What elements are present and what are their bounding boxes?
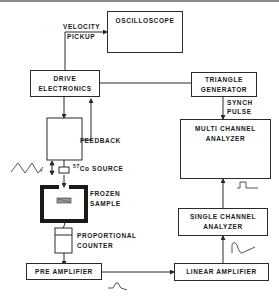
velocity-label: VELOCITY [63,22,100,31]
source-text: Co SOURCE [80,165,124,172]
sca-label-1: SINGLE CHANNEL [190,212,256,222]
triangle-generator-label-2: GENERATOR [201,85,247,95]
linear-amplifier-label: LINEAR AMPLIFIER [186,267,256,277]
pre-amplifier-block: PRE AMPLIFIER [26,263,102,280]
pre-amplifier-label: PRE AMPLIFIER [35,267,93,277]
synch-label: SYNCH [227,98,253,107]
drive-electronics-label-1: DRIVE [54,74,77,84]
linear-amplifier-block: LINEAR AMPLIFIER [174,263,269,281]
proportional-counter [55,228,72,253]
single-channel-analyzer-block: SINGLE CHANNEL ANALYZER [178,208,268,236]
mca-label-2: ANALYZER [206,134,246,144]
multi-channel-analyzer-block: MULTI CHANNEL ANALYZER [180,119,271,179]
pickup-label: PICKUP [67,32,95,41]
drive-transducer [47,118,82,160]
source-label: 57Co SOURCE [73,162,123,173]
frozen-label: FROZEN [90,189,120,198]
pulse-label: PULSE [227,107,252,116]
feedback-label: FEEDBACK [80,136,121,145]
oscilloscope-block: OSCILLOSCOPE [107,11,183,53]
triangle-generator-block: TRIANGLE GENERATOR [191,72,257,97]
oscilloscope-label: OSCILLOSCOPE [116,16,175,26]
mca-label-1: MULTI CHANNEL [195,124,256,134]
drive-electronics-label-2: ELECTRONICS [38,84,91,94]
proportional-label: PROPORTIONAL [77,231,137,240]
counter-label: COUNTER [77,241,113,250]
source-holder [59,167,69,173]
frozen-sample-cryostat [42,187,86,221]
sca-label-2: ANALYZER [203,222,243,232]
triangle-generator-label-1: TRIANGLE [205,75,243,85]
drive-electronics-block: DRIVE ELECTRONICS [30,70,100,97]
sample-label: SAMPLE [90,199,121,208]
source-isotope-superscript: 57 [73,163,80,169]
